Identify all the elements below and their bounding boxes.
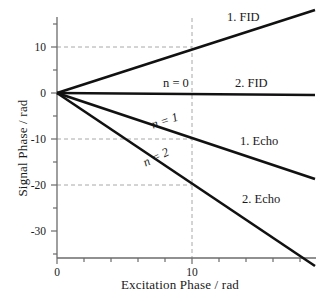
annotation-n-0: n = 0 (163, 76, 189, 91)
annotation-2-echo: 2. Echo (242, 192, 280, 207)
annotation-1-fid: 1. FID (227, 10, 260, 25)
series-2-fid (57, 93, 315, 95)
y-tick-marks (51, 24, 57, 254)
x-axis-title: Excitation Phase / rad (40, 277, 320, 293)
x-tick-marks (57, 258, 300, 264)
series-2-echo (57, 93, 315, 266)
y-axis-title: Signal Phase / rad (15, 63, 31, 233)
annotation-1-echo: 1. Echo (240, 134, 278, 149)
annotation-2-fid: 2. FID (235, 76, 268, 91)
y-tick-label-10: 10 (16, 41, 46, 53)
chart-figure: 10 0 -10 -20 -30 0 10 Signal Phase / rad… (0, 0, 324, 301)
